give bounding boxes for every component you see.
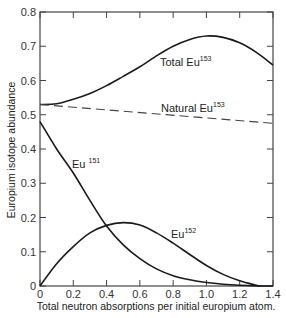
x-tick-label: 0.8 [165,288,180,300]
series-label: Eu 151 [72,157,100,170]
series-label: Total Eu153 [160,55,212,68]
y-tick-label: 0.7 [21,40,36,52]
y-tick-label: 0.2 [21,212,36,224]
y-tick-label: 0 [30,280,36,292]
series-label: Natural Eu153 [161,101,225,114]
line-chart: 00.20.40.60.81.01.21.400.10.20.30.40.50.… [0,0,286,318]
x-tick-label: 0 [37,288,43,300]
y-tick-label: 0.1 [21,246,36,258]
series-line-eu152 [40,223,260,286]
series-line-natural-eu153 [40,104,273,123]
y-axis-label: Europium isotope abundance [5,82,17,219]
y-tick-label: 0.4 [21,143,36,155]
x-tick-label: 0.2 [66,288,81,300]
series-line-eu151 [40,122,273,286]
series-label: Eu152 [171,227,196,240]
y-tick-label: 0.8 [21,6,36,18]
series-line-total-eu153 [40,36,273,105]
x-tick-label: 1.0 [199,288,214,300]
series-labels: Total Eu153Natural Eu153Eu 151Eu152 [72,55,225,240]
x-tick-label: 0.6 [132,288,147,300]
y-tick-label: 0.3 [21,177,36,189]
y-tick-label: 0.5 [21,109,36,121]
x-tick-label: 1.4 [265,288,280,300]
x-tick-label: 1.2 [232,288,247,300]
x-axis-label: Total neutron absorptions per initial eu… [37,300,276,312]
y-tick-label: 0.6 [21,75,36,87]
x-tick-label: 0.4 [99,288,114,300]
